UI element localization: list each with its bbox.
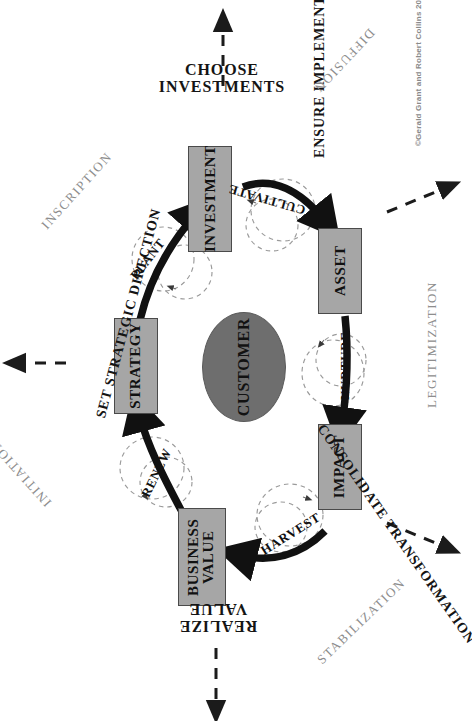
phase-label-realize-value: REALIZE VALUE: [158, 600, 278, 634]
copyright-notice: ©Gerald Grant and Robert Collins 2012: [414, 0, 423, 146]
stage-label-legitimization: LEGITIMIZATION: [424, 281, 440, 408]
phase-label-choose-investments: CHOOSE INVESTMENTS: [142, 62, 302, 96]
process-box-asset-label: ASSET: [332, 246, 347, 297]
customer-ellipse[interactable]: CUSTOMER: [202, 312, 286, 422]
process-box-asset[interactable]: ASSET: [318, 228, 362, 314]
process-box-investment-label: INVESTMENT: [202, 146, 217, 253]
diagram-canvas: INVESTMENT ASSET IMPACT BUSINESS VALUE S…: [0, 0, 472, 721]
customer-label: CUSTOMER: [235, 318, 253, 417]
process-box-business-value-label: BUSINESS VALUE: [187, 518, 218, 595]
loop-label-nurture: NURTURE: [337, 331, 353, 400]
process-box-investment[interactable]: INVESTMENT: [188, 146, 232, 252]
process-box-business-value[interactable]: BUSINESS VALUE: [178, 508, 226, 606]
